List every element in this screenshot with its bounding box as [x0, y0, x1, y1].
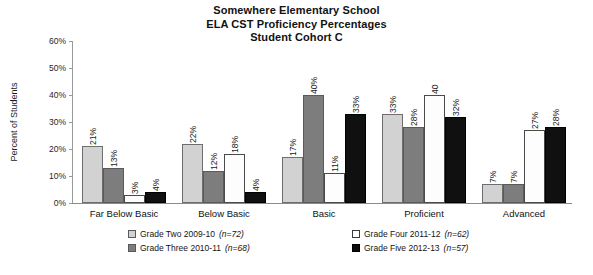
bar-group-advanced: 7%7%27%28% — [482, 41, 566, 203]
plot-area: 21%13%3%4%22%12%18%4%17%40%11%33%33%28%4… — [72, 41, 572, 203]
bar-group-below-basic: 22%12%18%4% — [182, 41, 266, 203]
category-label-proficient: Proficient — [404, 208, 444, 219]
bar-value-label: 22% — [188, 126, 198, 143]
x-axis-line — [72, 203, 572, 204]
category-label-far-below-basic: Far Below Basic — [90, 208, 159, 219]
bar-value-label: 40 — [430, 85, 440, 94]
bar-proficient-series-2[interactable]: 28% — [403, 127, 424, 203]
bar-proficient-series-3[interactable]: 40 — [424, 95, 445, 203]
legend-item-3[interactable]: Grade Four 2011-12(n=62) — [352, 229, 469, 239]
legend-sample-size: (n=62) — [444, 229, 469, 239]
bar-proficient-series-4[interactable]: 32% — [445, 117, 466, 203]
legend-label: Grade Two 2009-10 — [140, 229, 215, 239]
bar-value-label: 7% — [488, 171, 498, 183]
bar-value-label: 12% — [209, 153, 219, 170]
bar-value-label: 28% — [551, 109, 561, 126]
category-label-basic: Basic — [312, 208, 335, 219]
bar-value-label: 32% — [451, 99, 461, 116]
bar-basic-series-4[interactable]: 33% — [345, 114, 366, 203]
bar-far-below-basic-series-3[interactable]: 3% — [124, 195, 145, 203]
legend-item-4[interactable]: Grade Five 2012-13(n=57) — [352, 243, 468, 253]
y-tick-label-60: 60% — [32, 36, 66, 46]
legend-sample-size: (n=72) — [219, 229, 244, 239]
bar-basic-series-2[interactable]: 40% — [303, 95, 324, 203]
y-tick-label-40: 40% — [32, 90, 66, 100]
bar-value-label: 28% — [409, 109, 419, 126]
bar-group-far-below-basic: 21%13%3%4% — [82, 41, 166, 203]
y-tick-label-30: 30% — [32, 117, 66, 127]
legend-swatch-icon — [352, 244, 360, 252]
y-tick-label-50: 50% — [32, 63, 66, 73]
bar-group-proficient: 33%28%4032% — [382, 41, 466, 203]
bar-basic-series-1[interactable]: 17% — [282, 157, 303, 203]
y-tick-label-20: 20% — [32, 144, 66, 154]
bar-value-label: 4% — [151, 179, 161, 191]
bar-far-below-basic-series-2[interactable]: 13% — [103, 168, 124, 203]
legend-sample-size: (n=57) — [444, 243, 469, 253]
y-tick-label-10: 10% — [32, 171, 66, 181]
title-line-2: ELA CST Proficiency Percentages — [0, 18, 593, 32]
y-axis-title: Percent of Students — [9, 82, 19, 161]
bar-proficient-series-1[interactable]: 33% — [382, 114, 403, 203]
bar-group-basic: 17%40%11%33% — [282, 41, 366, 203]
legend-label: Grade Five 2012-13 — [364, 243, 440, 253]
bar-value-label: 11% — [330, 156, 340, 172]
bar-value-label: 33% — [388, 96, 398, 113]
bar-value-label: 40% — [309, 77, 319, 94]
legend-sample-size: (n=68) — [225, 243, 250, 253]
bar-far-below-basic-series-4[interactable]: 4% — [145, 192, 166, 203]
bar-below-basic-series-4[interactable]: 4% — [245, 192, 266, 203]
bar-value-label: 17% — [288, 139, 298, 156]
bar-value-label: 13% — [109, 150, 119, 167]
bar-below-basic-series-3[interactable]: 18% — [224, 154, 245, 203]
bar-value-label: 27% — [530, 112, 540, 129]
category-label-advanced: Advanced — [503, 208, 545, 219]
y-tick-label-0: 0% — [32, 198, 66, 208]
chart-title: Somewhere Elementary School ELA CST Prof… — [0, 4, 593, 45]
legend-swatch-icon — [128, 244, 136, 252]
bar-advanced-series-2[interactable]: 7% — [503, 184, 524, 203]
title-line-1: Somewhere Elementary School — [0, 4, 593, 18]
bar-value-label: 33% — [351, 96, 361, 113]
bar-advanced-series-3[interactable]: 27% — [524, 130, 545, 203]
bar-below-basic-series-1[interactable]: 22% — [182, 144, 203, 203]
bar-advanced-series-1[interactable]: 7% — [482, 184, 503, 203]
bar-value-label: 18% — [230, 136, 240, 153]
bar-value-label: 4% — [251, 179, 261, 191]
legend-label: Grade Four 2011-12 — [364, 229, 440, 239]
legend-swatch-icon — [352, 230, 360, 238]
legend-item-1[interactable]: Grade Two 2009-10(n=72) — [128, 229, 244, 239]
bar-value-label: 3% — [130, 182, 140, 194]
legend-swatch-icon — [128, 230, 136, 238]
category-label-below-basic: Below Basic — [198, 208, 250, 219]
legend-item-2[interactable]: Grade Three 2010-11(n=68) — [128, 243, 250, 253]
bar-value-label: 21% — [88, 128, 98, 145]
bar-advanced-series-4[interactable]: 28% — [545, 127, 566, 203]
bar-below-basic-series-2[interactable]: 12% — [203, 171, 224, 203]
legend-label: Grade Three 2010-11 — [140, 243, 221, 253]
chart-legend: Grade Two 2009-10(n=72)Grade Three 2010-… — [0, 227, 593, 263]
bar-basic-series-3[interactable]: 11% — [324, 173, 345, 203]
bar-far-below-basic-series-1[interactable]: 21% — [82, 146, 103, 203]
bar-value-label: 7% — [509, 171, 519, 183]
